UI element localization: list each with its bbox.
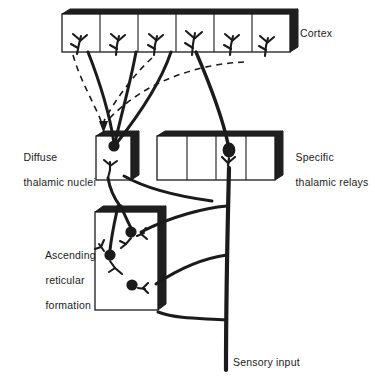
figure-canvas: Cortex Diffuse thalamic nuclei Specific …: [0, 0, 375, 378]
label-specific-thalamic-relays: Specific thalamic relays: [283, 138, 369, 201]
specific-relay-to-cortex-axon: [196, 52, 228, 144]
specific-relay-soma: [223, 143, 236, 158]
diffuse-thalamic-to-cortex-axons: [88, 52, 171, 144]
label-reticular-line-1: Ascending: [45, 249, 96, 261]
label-reticular-line-2: reticular: [45, 274, 84, 286]
specific-thalamic-relays-box: [157, 131, 283, 180]
diffuse-nucleus-soma: [108, 140, 119, 151]
cortex-box: [62, 9, 298, 52]
label-specific-line-1: Specific: [295, 151, 333, 163]
label-diffuse-line-1: Diffuse: [23, 151, 57, 163]
label-diffuse-thalamic-nuclei: Diffuse thalamic nuclei: [11, 138, 96, 201]
label-reticular-line-3: formation: [45, 299, 91, 311]
label-ascending-reticular-formation: Ascending reticular formation: [33, 236, 96, 324]
sensory-input-trunk: [226, 168, 229, 370]
label-diffuse-line-2: thalamic nuclei: [23, 176, 95, 188]
label-sensory-input: Sensory input: [233, 356, 300, 369]
label-specific-line-2: thalamic relays: [295, 176, 368, 188]
label-cortex: Cortex: [300, 27, 332, 40]
